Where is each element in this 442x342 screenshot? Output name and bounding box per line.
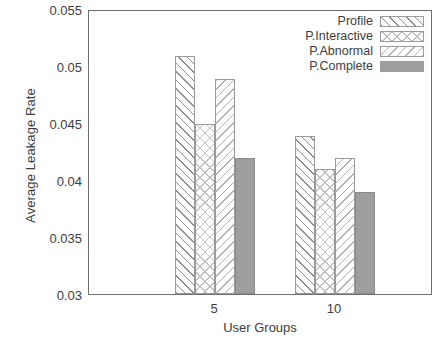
legend-swatch-pcomplete-icon: [380, 61, 424, 72]
y-tick-label-5: 0.055: [2, 3, 82, 18]
legend-label-pabnormal: P.Abnormal: [309, 44, 373, 58]
bar-chart-figure: Average Leakage Rate 0.03 0.035 0.04 0.0…: [0, 0, 442, 342]
y-tick-label-0: 0.03: [2, 288, 82, 303]
legend-swatch-pinteractive-icon: [380, 31, 424, 42]
y-tick-label-2: 0.04: [2, 174, 82, 189]
legend-item-profile: Profile: [212, 14, 424, 28]
bar-pinteractive-group-5: [195, 124, 215, 294]
bar-pcomplete-group-5: [235, 158, 255, 294]
y-tick-label-1: 0.035: [2, 231, 82, 246]
y-tick-label-3: 0.045: [2, 117, 82, 132]
y-tick-label-4: 0.05: [2, 60, 82, 75]
chart-legend: Profile P.Interactive P.Abnormal P.Compl…: [212, 14, 424, 74]
bar-pabnormal-group-5: [215, 79, 235, 294]
x-tick-label-group-5: 5: [210, 301, 217, 316]
legend-swatch-profile-icon: [380, 16, 424, 27]
legend-item-pabnormal: P.Abnormal: [212, 44, 424, 58]
bar-profile-group-10: [295, 136, 315, 294]
legend-item-pinteractive: P.Interactive: [212, 29, 424, 43]
legend-label-profile: Profile: [338, 14, 373, 28]
legend-label-pcomplete: P.Complete: [309, 59, 373, 73]
x-tick-label-group-10: 10: [327, 301, 341, 316]
legend-swatch-pabnormal-icon: [380, 46, 424, 57]
bar-profile-group-5: [175, 56, 195, 294]
bar-pabnormal-group-10: [335, 158, 355, 294]
x-axis-title: User Groups: [88, 320, 432, 335]
bar-pinteractive-group-10: [315, 169, 335, 294]
bar-pcomplete-group-10: [355, 192, 375, 294]
legend-label-pinteractive: P.Interactive: [305, 29, 373, 43]
legend-item-pcomplete: P.Complete: [212, 59, 424, 73]
